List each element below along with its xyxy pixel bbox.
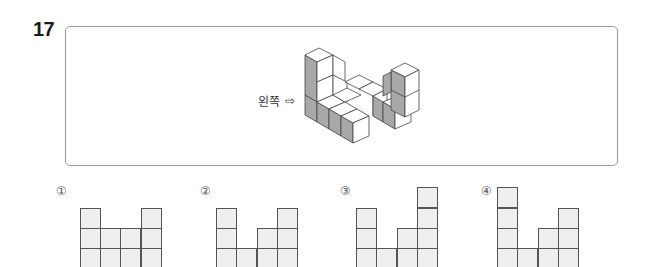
right-arrow-icon: ⇨: [285, 94, 295, 108]
direction-text: 왼쪽: [258, 92, 280, 109]
option-1-label: ①: [56, 184, 67, 198]
option-2-label: ②: [200, 184, 211, 198]
option-3-label: ③: [340, 184, 351, 198]
question-number: 17: [33, 18, 54, 41]
cube-stack-figure: [295, 40, 425, 155]
view-direction-label: 왼쪽 ⇨: [258, 92, 295, 109]
option-4-label: ④: [481, 184, 492, 198]
